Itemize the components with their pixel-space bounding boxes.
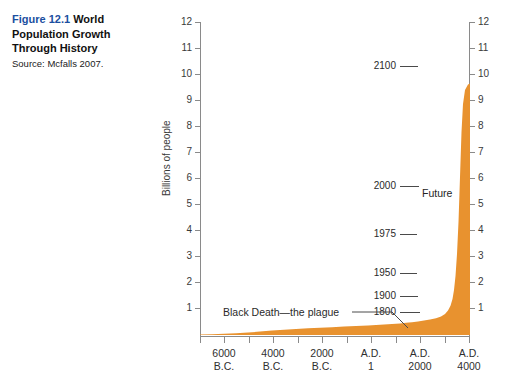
y-label-left-5: 5 bbox=[168, 199, 192, 209]
annotation-future: Future bbox=[422, 187, 452, 199]
population-area-curve bbox=[200, 22, 470, 337]
x-tick-8 bbox=[396, 337, 397, 343]
x-label-ad-4000-line2: 4000 bbox=[457, 360, 480, 372]
y-tick-right-12 bbox=[470, 22, 475, 23]
x-tick-2 bbox=[249, 337, 250, 343]
y-tick-left-11 bbox=[195, 48, 200, 49]
x-tick-0 bbox=[200, 337, 201, 343]
x-label-ad-2000-line1: A.D. bbox=[410, 347, 430, 359]
y-tick-right-8 bbox=[470, 126, 475, 127]
y-label-right-12: 12 bbox=[478, 17, 502, 27]
x-label-ad-1-line2: 1 bbox=[368, 360, 374, 372]
y-tick-right-10 bbox=[470, 74, 475, 75]
x-label-6000-bc-line1: 6000 bbox=[212, 347, 235, 359]
y-tick-left-6 bbox=[195, 178, 200, 179]
annotation-1900-leader bbox=[400, 296, 418, 297]
y-label-left-11: 11 bbox=[168, 43, 192, 53]
y-tick-left-1 bbox=[195, 308, 200, 309]
annotation-black-death: Black Death—the plague bbox=[223, 306, 339, 318]
y-label-right-6: 6 bbox=[478, 173, 502, 183]
y-label-right-5: 5 bbox=[478, 199, 502, 209]
y-tick-left-10 bbox=[195, 74, 200, 75]
figure-title: Figure 12.1 World Population Growth Thro… bbox=[12, 12, 158, 56]
y-axis-title: Billions of people bbox=[161, 120, 172, 196]
y-tick-left-9 bbox=[195, 100, 200, 101]
y-label-left-1: 1 bbox=[168, 303, 192, 313]
y-label-right-1: 1 bbox=[478, 303, 502, 313]
annotation-2000: 2000 bbox=[364, 181, 396, 191]
x-tick-7 bbox=[371, 337, 372, 343]
annotation-2100-leader bbox=[400, 66, 418, 67]
y-label-left-12: 12 bbox=[168, 17, 192, 27]
x-tick-6 bbox=[347, 337, 348, 343]
y-tick-left-12 bbox=[195, 22, 200, 23]
y-tick-left-4 bbox=[195, 230, 200, 231]
y-label-right-2: 2 bbox=[478, 277, 502, 287]
y-label-right-9: 9 bbox=[478, 95, 502, 105]
y-tick-right-6 bbox=[470, 178, 475, 179]
annotation-2000-leader bbox=[400, 186, 419, 187]
y-label-left-4: 4 bbox=[168, 225, 192, 235]
figure-source: Source: Mcfalls 2007. bbox=[12, 57, 158, 70]
annotation-1900: 1900 bbox=[364, 291, 396, 301]
y-label-right-7: 7 bbox=[478, 147, 502, 157]
x-tick-4 bbox=[298, 337, 299, 343]
y-label-right-3: 3 bbox=[478, 251, 502, 261]
y-label-right-11: 11 bbox=[478, 43, 502, 53]
x-tick-3 bbox=[273, 337, 274, 343]
y-tick-right-4 bbox=[470, 230, 475, 231]
x-label-ad-2000-line2: 2000 bbox=[408, 360, 431, 372]
annotation-black-death-leader bbox=[350, 308, 412, 334]
x-label-4000-bc-line2: B.C. bbox=[263, 360, 283, 372]
x-label-4000-bc-line1: 4000 bbox=[261, 347, 284, 359]
annotation-1975: 1975 bbox=[364, 229, 396, 239]
x-label-6000-bc-line2: B.C. bbox=[214, 360, 234, 372]
x-label-2000-bc-line1: 2000 bbox=[310, 347, 333, 359]
figure-caption-block: Figure 12.1 World Population Growth Thro… bbox=[12, 12, 158, 70]
x-label-ad-1-line1: A.D. bbox=[361, 347, 381, 359]
y-label-left-6: 6 bbox=[168, 173, 192, 183]
chart-plot-area: 12 11 10 9 8 7 6 5 4 3 2 1 12 11 10 9 8 … bbox=[200, 22, 470, 337]
x-tick-11 bbox=[469, 337, 470, 343]
x-label-ad-4000: A.D. 4000 bbox=[439, 347, 499, 373]
x-tick-5 bbox=[322, 337, 323, 343]
y-label-left-7: 7 bbox=[168, 147, 192, 157]
x-tick-10 bbox=[445, 337, 446, 343]
y-tick-left-8 bbox=[195, 126, 200, 127]
y-label-right-8: 8 bbox=[478, 121, 502, 131]
figure-number: Figure 12.1 bbox=[12, 13, 70, 25]
y-tick-left-2 bbox=[195, 282, 200, 283]
y-tick-right-5 bbox=[470, 204, 475, 205]
y-label-left-8: 8 bbox=[168, 121, 192, 131]
y-label-right-4: 4 bbox=[478, 225, 502, 235]
annotation-1950-leader bbox=[400, 273, 417, 274]
y-tick-right-2 bbox=[470, 282, 475, 283]
x-label-ad-4000-line1: A.D. bbox=[459, 347, 479, 359]
annotation-1975-leader bbox=[400, 234, 417, 235]
y-tick-right-1 bbox=[470, 308, 475, 309]
y-tick-left-3 bbox=[195, 256, 200, 257]
y-label-left-9: 9 bbox=[168, 95, 192, 105]
y-tick-right-7 bbox=[470, 152, 475, 153]
annotation-1950: 1950 bbox=[364, 268, 396, 278]
y-label-left-2: 2 bbox=[168, 277, 192, 287]
y-label-right-10: 10 bbox=[478, 69, 502, 79]
y-tick-left-7 bbox=[195, 152, 200, 153]
y-tick-right-11 bbox=[470, 48, 475, 49]
y-tick-left-5 bbox=[195, 204, 200, 205]
y-tick-right-9 bbox=[470, 100, 475, 101]
y-label-left-3: 3 bbox=[168, 251, 192, 261]
y-tick-right-3 bbox=[470, 256, 475, 257]
y-label-left-10: 10 bbox=[168, 69, 192, 79]
x-tick-9 bbox=[420, 337, 421, 343]
x-tick-1 bbox=[224, 337, 225, 343]
annotation-2100: 2100 bbox=[364, 61, 396, 71]
x-label-2000-bc-line2: B.C. bbox=[312, 360, 332, 372]
